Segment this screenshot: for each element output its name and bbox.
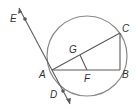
label-d: D <box>50 89 57 100</box>
label-c: C <box>122 23 130 34</box>
label-g: G <box>69 44 77 55</box>
label-b: B <box>122 69 129 80</box>
point-e-dot <box>23 17 27 21</box>
point-d-dot <box>61 89 65 93</box>
segment-ac <box>52 33 120 70</box>
arrow-d-icon <box>66 98 71 104</box>
label-f: F <box>84 73 91 84</box>
label-a: A <box>38 69 46 80</box>
label-e: E <box>10 13 17 24</box>
geometry-diagram: E A D G F B C <box>0 0 138 107</box>
segment-gf <box>80 55 87 70</box>
